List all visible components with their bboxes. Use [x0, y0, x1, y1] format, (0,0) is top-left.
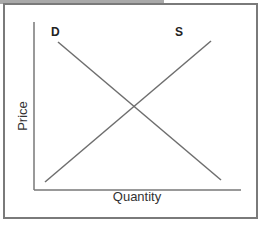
demand-curve-label: D [51, 25, 60, 39]
x-axis-label: Quantity [113, 189, 161, 204]
supply-curve-label: S [175, 25, 183, 39]
supply-curve [45, 41, 211, 182]
y-axis-label: Price [15, 101, 30, 131]
demand-curve [58, 42, 221, 180]
